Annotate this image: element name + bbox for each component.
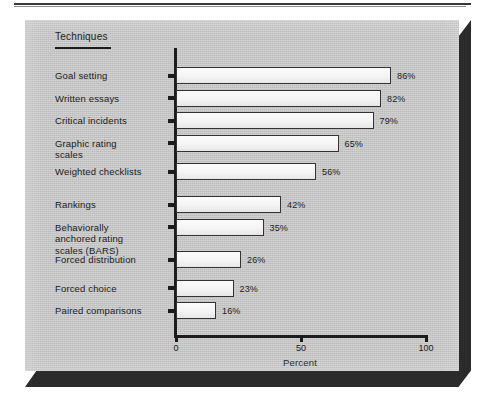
bar-value-label: 86% — [397, 71, 415, 81]
y-axis-tick — [168, 225, 175, 229]
y-axis-tick — [168, 74, 175, 78]
category-label: Weighted checklists — [55, 166, 142, 178]
category-label: Forced choice — [55, 283, 117, 295]
bar[interactable] — [176, 67, 391, 84]
bar-value-label: 35% — [270, 223, 288, 233]
chart-figure-panel: Techniques Goal settingWritten essaysCri… — [25, 20, 459, 371]
bar-value-label: 82% — [387, 94, 405, 104]
bar-value-label: 79% — [380, 116, 398, 126]
category-label: Behaviorally anchored rating scales (BAR… — [55, 222, 123, 257]
x-axis-tick — [175, 335, 178, 342]
category-label: Goal setting — [55, 70, 108, 82]
category-label: Paired comparisons — [55, 305, 142, 317]
y-axis-tick — [168, 141, 175, 145]
bar-value-label: 23% — [240, 284, 258, 294]
y-axis-tick — [168, 119, 175, 123]
y-axis-tick — [168, 96, 175, 100]
bar[interactable] — [176, 135, 339, 152]
bar-chart: Techniques Goal settingWritten essaysCri… — [25, 20, 459, 371]
category-label: Graphic rating scales — [55, 138, 117, 161]
x-axis-tick-label: 100 — [418, 343, 433, 353]
bar[interactable] — [176, 90, 381, 107]
page-top-rule-secondary — [14, 6, 466, 7]
x-axis-tick-label: 50 — [296, 343, 306, 353]
x-axis-title: Percent — [283, 357, 317, 368]
bar-value-label: 26% — [247, 255, 265, 265]
bar[interactable] — [176, 251, 241, 268]
y-axis-tick — [168, 203, 175, 207]
bar[interactable] — [176, 196, 281, 213]
category-label: Forced distribution — [55, 254, 136, 266]
bar-value-label: 65% — [345, 139, 363, 149]
bar[interactable] — [176, 163, 316, 180]
bar-value-label: 56% — [322, 167, 340, 177]
y-axis-tick — [168, 170, 175, 174]
x-axis-tick-label: 0 — [173, 343, 178, 353]
category-label: Critical incidents — [55, 115, 127, 127]
techniques-header-underline — [55, 47, 111, 49]
y-axis-tick — [168, 309, 175, 313]
x-axis-tick — [425, 335, 428, 342]
bar-value-label: 16% — [222, 306, 240, 316]
page-top-rule — [14, 3, 471, 5]
bar[interactable] — [176, 219, 264, 236]
bar[interactable] — [176, 112, 374, 129]
x-axis-tick — [300, 335, 303, 342]
category-label: Rankings — [55, 199, 96, 211]
y-axis-tick — [168, 258, 175, 262]
y-axis-tick — [168, 286, 175, 290]
bar-value-label: 42% — [287, 200, 305, 210]
techniques-column-header: Techniques — [55, 31, 108, 42]
bar[interactable] — [176, 280, 234, 297]
bar[interactable] — [176, 302, 216, 319]
category-label: Written essays — [55, 93, 119, 105]
